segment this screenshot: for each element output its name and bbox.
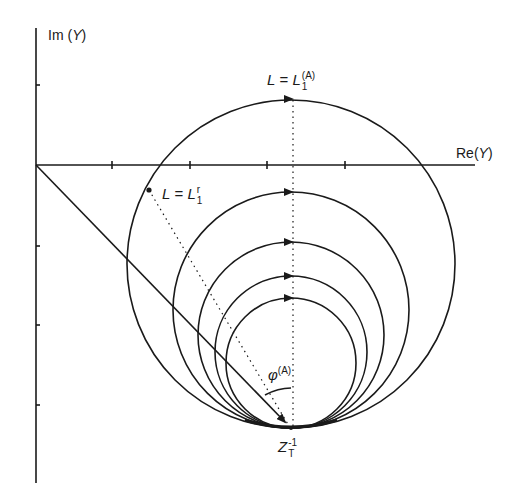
res-rhs: L — [187, 185, 195, 202]
res-sub: 1 — [197, 195, 203, 206]
z-sup: -1 — [288, 437, 297, 448]
res-eq: = — [175, 185, 184, 202]
top-rhs: L — [292, 71, 300, 88]
im-variable: Y — [72, 27, 81, 43]
circle-2 — [173, 192, 409, 428]
top-eq: = — [280, 71, 289, 88]
z-base: Z — [278, 438, 287, 455]
res-sup: r — [197, 184, 203, 195]
admittance-circle-diagram: Im (Y) Re(Y) L = L(A)1 L = Lr1 φ(A) Z-1T — [0, 0, 532, 496]
top-lhs: L — [267, 71, 275, 88]
diagram-canvas — [0, 0, 532, 496]
top-sup: (A) — [302, 70, 315, 81]
top-sub: 1 — [302, 81, 315, 92]
angle-label: φ(A) — [268, 366, 291, 382]
real-axis-label: Re(Y) — [456, 146, 493, 160]
re-variable: Y — [479, 145, 488, 161]
phi-symbol: φ — [268, 366, 278, 383]
re-prefix: Re — [456, 145, 474, 161]
resonance-point — [146, 187, 151, 192]
arrow-circle-3 — [284, 238, 294, 246]
z-sub: T — [288, 448, 297, 459]
top-point-label: L = L(A)1 — [267, 70, 315, 92]
admittance-vector — [36, 165, 285, 422]
im-prefix: Im — [48, 27, 64, 43]
circle-5 — [226, 298, 356, 428]
resonance-point-label: L = Lr1 — [162, 184, 202, 206]
circle-3 — [198, 242, 384, 428]
phi-sup: (A) — [278, 365, 291, 376]
resonance-dotted-line — [149, 190, 289, 426]
arrow-circle-1 — [284, 95, 294, 103]
tangent-point-label: Z-1T — [278, 437, 297, 459]
res-lhs: L — [162, 185, 170, 202]
angle-arc — [265, 388, 291, 395]
imaginary-axis-label: Im (Y) — [48, 28, 86, 42]
